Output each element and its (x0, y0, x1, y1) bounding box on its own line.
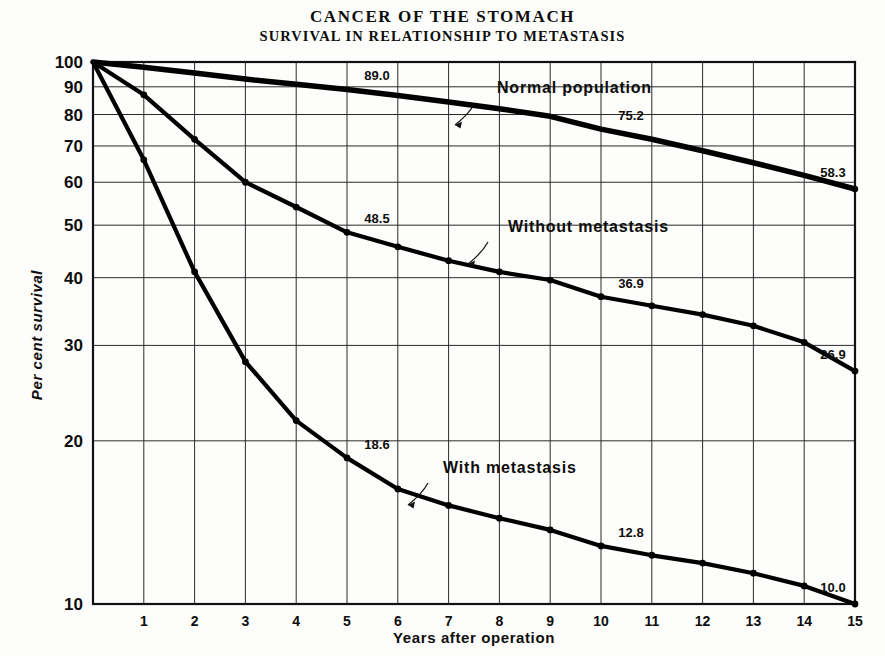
data-point-value-label: 36.9 (618, 276, 643, 291)
data-point-marker (140, 156, 147, 163)
data-point-marker (394, 243, 401, 250)
data-point-marker (496, 268, 503, 275)
data-point-marker (801, 582, 808, 589)
series-line (93, 62, 855, 604)
plot-frame (93, 62, 855, 604)
data-point-marker (547, 277, 554, 284)
data-point-marker (140, 91, 147, 98)
data-point-marker (852, 601, 859, 608)
series-annotation-label: Normal population (497, 79, 652, 96)
data-point-marker (293, 417, 300, 424)
data-point-value-label: 48.5 (364, 211, 389, 226)
data-point-marker (293, 204, 300, 211)
axes-frame (93, 62, 855, 604)
series-annotation-label: Without metastasis (508, 218, 669, 235)
data-point-value-label: 89.0 (364, 68, 389, 83)
data-point-marker (750, 570, 757, 577)
x-tick-label: 14 (796, 613, 812, 629)
x-tick-label: 9 (546, 613, 554, 629)
x-tick-label: 12 (695, 613, 711, 629)
data-point-marker (344, 229, 351, 236)
x-tick-label: 2 (191, 613, 199, 629)
y-tick-label: 70 (64, 137, 83, 156)
data-point-marker (242, 179, 249, 186)
x-tick-label: 1 (140, 613, 148, 629)
y-tick-label: 100 (55, 53, 83, 72)
x-tick-label: 7 (445, 613, 453, 629)
x-tick-label: 4 (292, 613, 300, 629)
x-tick-label: 10 (593, 613, 609, 629)
data-point-marker (699, 560, 706, 567)
data-point-value-label: 10.0 (820, 580, 845, 595)
data-point-value-label: 75.2 (618, 108, 643, 123)
data-point-marker (394, 486, 401, 493)
x-tick-label: 3 (242, 613, 250, 629)
data-point-marker (801, 339, 808, 346)
data-point-marker (750, 322, 757, 329)
y-tick-label: 20 (64, 432, 83, 451)
data-point-marker (191, 136, 198, 143)
data-point-marker (547, 526, 554, 533)
data-point-marker (191, 268, 198, 275)
x-tick-label: 8 (496, 613, 504, 629)
y-tick-label: 60 (64, 173, 83, 192)
series-annotation-label: With metastasis (443, 459, 577, 476)
y-tick-label: 40 (64, 269, 83, 288)
data-point-marker (445, 502, 452, 509)
series-line (93, 62, 855, 189)
x-tick-label: 13 (746, 613, 762, 629)
x-tick-label: 5 (343, 613, 351, 629)
data-point-marker (496, 515, 503, 522)
data-point-value-label: 58.3 (820, 165, 845, 180)
x-tick-label: 6 (394, 613, 402, 629)
chart-plot-area: 1020304050607080901001234567891011121314… (0, 0, 885, 656)
data-point-marker (648, 552, 655, 559)
y-tick-label: 10 (64, 595, 83, 614)
series-line (93, 62, 855, 371)
data-curves (93, 62, 858, 607)
data-point-marker (852, 368, 859, 375)
data-point-value-label: 12.8 (618, 525, 643, 540)
x-tick-label: 11 (644, 613, 659, 629)
data-point-value-label: 26.9 (820, 347, 845, 362)
data-point-marker (598, 293, 605, 300)
survival-chart-figure: CANCER OF THE STOMACH SURVIVAL IN RELATI… (0, 0, 885, 656)
data-point-marker (242, 358, 249, 365)
data-point-marker (445, 257, 452, 264)
data-point-marker (699, 311, 706, 318)
y-tick-label: 90 (64, 78, 83, 97)
leader-arrow-icon (468, 242, 488, 264)
data-point-marker (852, 186, 858, 192)
gridlines (93, 62, 855, 604)
x-tick-label: 15 (847, 613, 863, 629)
data-point-marker (344, 455, 351, 462)
y-tick-label: 50 (64, 216, 83, 235)
x-axis-title: Years after operation (393, 629, 555, 646)
data-point-value-label: 18.6 (364, 437, 389, 452)
data-point-marker (648, 302, 655, 309)
y-axis-title: Per cent survival (28, 270, 45, 400)
data-point-marker (598, 542, 605, 549)
y-tick-label: 30 (64, 336, 83, 355)
axis-tick-labels: 1020304050607080901001234567891011121314… (55, 53, 863, 629)
y-tick-label: 80 (64, 106, 83, 125)
